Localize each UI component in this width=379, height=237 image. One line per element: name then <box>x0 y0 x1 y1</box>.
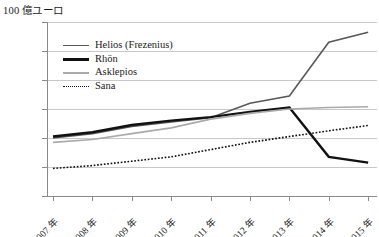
x-tick-label: 2015 年 <box>344 214 376 237</box>
y-tick-mark <box>42 167 47 168</box>
x-tick-label: 2011 年 <box>187 215 219 237</box>
x-tick-label: 2014 年 <box>305 214 337 237</box>
legend-item: Helios (Frezenius) <box>63 38 173 52</box>
x-tick-mark <box>53 196 54 201</box>
legend-label: Sana <box>95 79 115 93</box>
y-tick-mark <box>42 138 47 139</box>
y-tick-mark <box>42 196 47 197</box>
chart-figure: 100 億ユーロ 0100200300400500600 2007 年2008 … <box>0 0 379 237</box>
legend-label: Rhön <box>95 52 118 66</box>
y-tick-mark <box>42 80 47 81</box>
x-tick-mark <box>132 196 133 201</box>
y-tick-mark <box>42 51 47 52</box>
x-axis-line <box>47 196 377 197</box>
gridline <box>47 167 377 168</box>
x-tick-mark <box>211 196 212 201</box>
x-tick-label: 2013 年 <box>265 214 297 237</box>
y-axis-unit-label: 100 億ユーロ <box>3 2 63 17</box>
gridline <box>47 22 377 23</box>
x-tick-label: 2009 年 <box>108 214 140 237</box>
legend: Helios (Frezenius)RhönAsklepiosSana <box>63 38 173 92</box>
y-tick-mark <box>42 109 47 110</box>
x-tick-label: 2008 年 <box>68 214 100 237</box>
legend-label: Asklepios <box>95 65 137 79</box>
x-tick-mark <box>171 196 172 201</box>
legend-swatch-icon <box>63 40 89 50</box>
x-tick-mark <box>329 196 330 201</box>
x-tick-mark <box>250 196 251 201</box>
legend-item: Rhön <box>63 52 173 66</box>
x-tick-mark <box>368 196 369 201</box>
x-tick-mark <box>92 196 93 201</box>
y-axis-line <box>47 22 48 196</box>
legend-label: Helios (Frezenius) <box>95 38 173 52</box>
x-tick-label: 2012 年 <box>226 214 258 237</box>
legend-item: Asklepios <box>63 65 173 79</box>
x-tick-label: 2007 年 <box>29 214 61 237</box>
legend-swatch-icon <box>63 53 89 63</box>
y-tick-mark <box>42 22 47 23</box>
gridline <box>47 109 377 110</box>
legend-item: Sana <box>63 79 173 93</box>
x-tick-mark <box>289 196 290 201</box>
legend-swatch-icon <box>63 81 89 91</box>
legend-swatch-icon <box>63 67 89 77</box>
x-tick-label: 2010 年 <box>147 214 179 237</box>
gridline <box>47 138 377 139</box>
